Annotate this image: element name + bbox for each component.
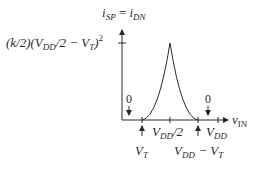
x-axis-label: vIN xyxy=(232,112,248,129)
vdd-minus-vt-label: VDD − VT xyxy=(174,143,224,160)
y-axis-label: iSP = iDN xyxy=(102,5,147,22)
vdd-label: VDD xyxy=(206,124,227,141)
current-curve xyxy=(142,43,198,120)
current-vs-input-voltage-diagram: iSP = iDN (k/2)(VDD/2 − VT)2 0 0 vIN VDD… xyxy=(0,0,260,172)
zero-right-label: 0 xyxy=(205,92,211,106)
peak-value-label: (k/2)(VDD/2 − VT)2 xyxy=(6,33,103,52)
zero-left-label: 0 xyxy=(126,92,132,106)
vt-label: VT xyxy=(135,143,149,160)
vdd-half-label: VDD/2 xyxy=(152,124,184,141)
